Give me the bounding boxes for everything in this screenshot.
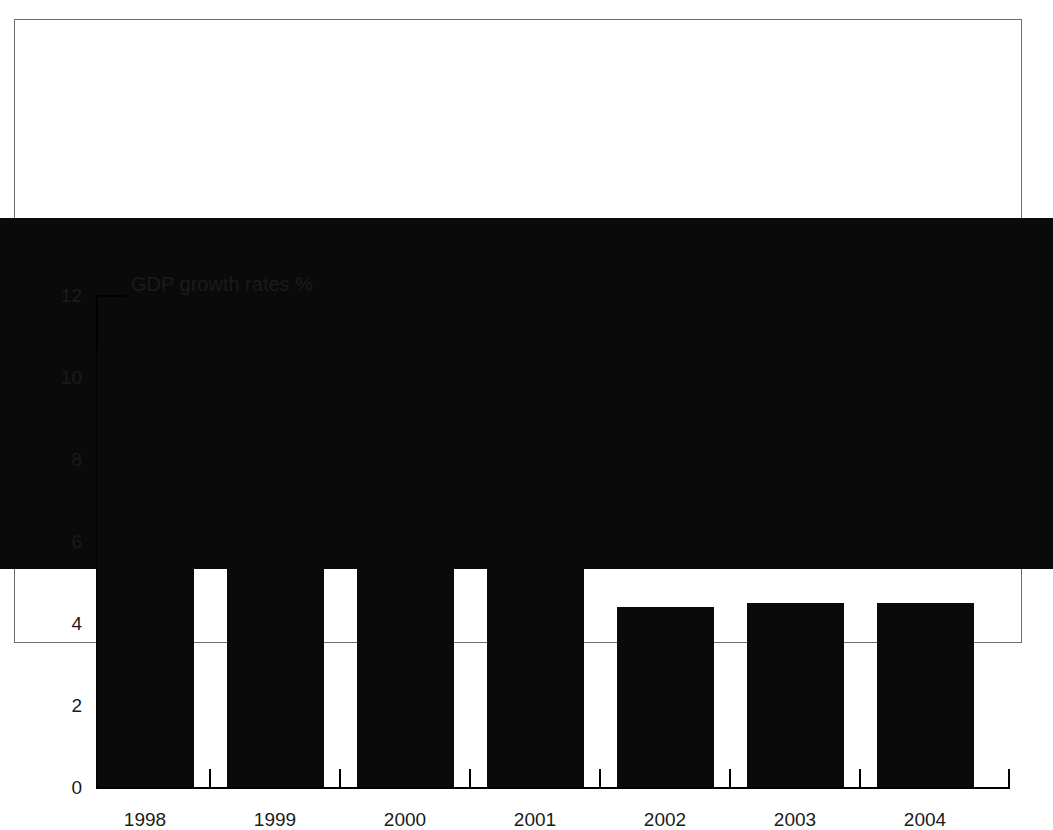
x-label-1998: 1998 [124,809,166,830]
y-tick-12 [96,295,123,297]
x-tick-5 [729,769,731,789]
caption-remnant [36,0,456,5]
x-tick-2 [339,769,341,789]
bar-1999 [227,408,324,787]
bar-2002 [617,607,714,787]
y-tick-label: 8 [22,449,82,471]
bar-2003 [747,603,844,788]
x-label-2000: 2000 [384,809,426,830]
y-tick-label: 4 [22,613,82,635]
x-tick-3 [469,769,471,789]
x-label-2001: 2001 [514,809,556,830]
bar-2004 [877,603,974,787]
x-label-1999: 1999 [254,809,296,830]
chart-title: GDP growth rates % [131,273,313,296]
x-tick-6 [859,769,861,789]
x-tick-1 [209,769,211,789]
x-label-2004: 2004 [904,809,946,830]
y-tick-label: 2 [22,695,82,717]
x-label-2003: 2003 [774,809,816,830]
y-tick-label: 6 [22,531,82,553]
bar-1998 [97,347,194,788]
bar-2001 [487,537,584,787]
x-axis-line [96,787,1010,789]
y-tick-label: 12 [22,285,82,307]
bar-chart-plot: GDP growth rates % 12 10 8 6 4 2 0 [0,218,1053,569]
y-tick-label: 10 [22,367,82,389]
x-tick-end [1008,769,1010,789]
x-label-2002: 2002 [644,809,686,830]
x-tick-4 [599,769,601,789]
y-tick-label: 0 [22,777,82,799]
bar-2000 [357,533,454,787]
